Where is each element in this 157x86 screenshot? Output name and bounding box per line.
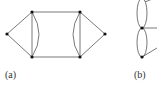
panel-b-edges [137, 0, 157, 57]
panel-b-vertices [140, 26, 143, 58]
panel-a-edges [7, 12, 105, 57]
panel-a-vertices [5, 10, 106, 58]
panel-b-label: (b) [134, 69, 146, 80]
panel-a-label: (a) [5, 69, 16, 80]
